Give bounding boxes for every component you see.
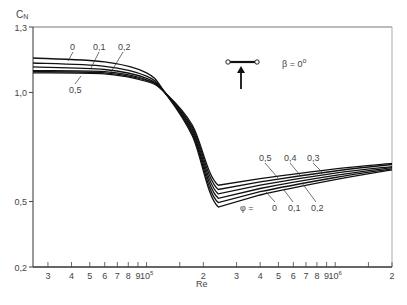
plot-frame (33, 27, 392, 267)
curve-phi-0.5 (33, 73, 392, 185)
x-tick-label: 4 (258, 271, 263, 281)
x-tick-label: 6 (291, 271, 296, 281)
x-axis: 3456789105234567891062 (45, 262, 394, 281)
curve-phi-0.4 (33, 72, 392, 190)
label-phi-02-top: 0,2 (118, 42, 131, 52)
x-tick-label: 8 (314, 271, 319, 281)
x-axis-title: Re (196, 279, 208, 289)
x-tick-label: 105 (140, 270, 154, 281)
y-tick-label: 1,0 (14, 88, 27, 98)
x-tick-label: 7 (303, 271, 308, 281)
x-tick-label: 3 (45, 271, 50, 281)
x-tick-label: 5 (87, 271, 92, 281)
x-tick-label: 5 (276, 271, 281, 281)
y-axis: 1,31,00,50,2 (14, 23, 33, 273)
y-tick-label: 0,2 (14, 263, 27, 273)
label-phi-02: 0,2 (311, 203, 324, 213)
x-tick-label: 2 (389, 271, 394, 281)
flat-plate-sketch-icon (226, 60, 259, 89)
label-phi-01-top: 0,1 (93, 42, 106, 52)
label-phi-04: 0,4 (284, 153, 297, 163)
label-phi-05: 0,5 (259, 153, 272, 163)
label-phi-equals: φ = (240, 203, 254, 213)
cn-vs-re-chart: 1,31,00,50,2 3456789105234567891062 CN R… (0, 0, 407, 305)
y-axis-title: CN (16, 9, 28, 20)
x-tick-label: 106 (329, 270, 343, 281)
x-tick-label: 3 (234, 271, 239, 281)
label-phi-03: 0,3 (307, 153, 320, 163)
x-tick-label: 7 (115, 271, 120, 281)
x-tick-label: 4 (69, 271, 74, 281)
y-tick-label: 1,3 (14, 23, 27, 33)
x-tick-label: 6 (102, 271, 107, 281)
label-phi-05-top: 0,5 (69, 85, 82, 95)
beta-annotation: β = 0o (282, 57, 306, 69)
label-phi-01: 0,1 (288, 203, 301, 213)
y-tick-label: 0,5 (14, 197, 27, 207)
curves (33, 58, 392, 207)
label-phi-0: 0 (272, 203, 277, 213)
x-tick-label: 8 (126, 271, 131, 281)
label-phi-0-top: 0 (70, 42, 75, 52)
